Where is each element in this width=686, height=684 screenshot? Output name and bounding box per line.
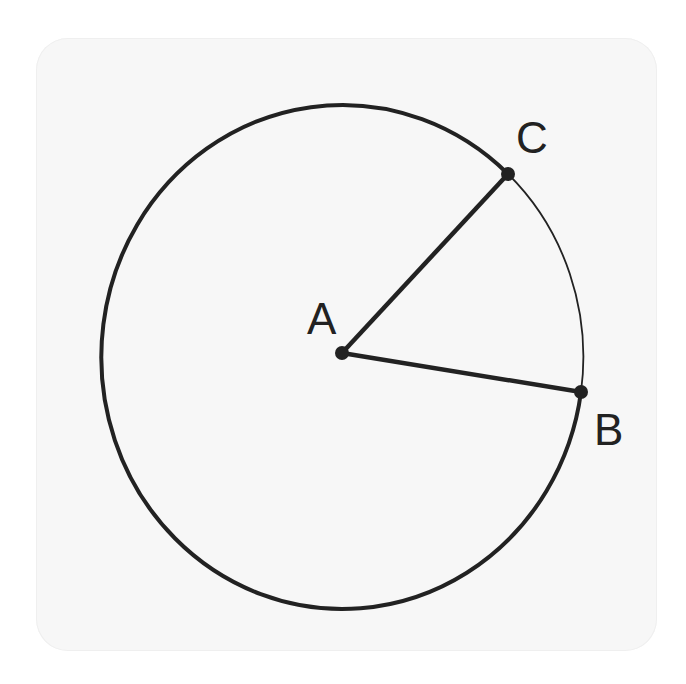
circle-diagram: A B C [0, 0, 686, 684]
point-c [501, 167, 515, 181]
label-b: B [594, 405, 623, 454]
segment-ab [342, 353, 581, 392]
label-a: A [307, 294, 337, 343]
minor-arc-cb [508, 174, 583, 392]
label-c: C [516, 113, 548, 162]
point-b [574, 385, 588, 399]
point-a [335, 346, 349, 360]
segment-ac [342, 174, 508, 353]
